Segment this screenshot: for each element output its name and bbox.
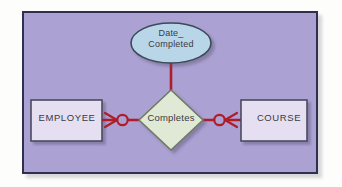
attribute-label-line-1: Date_ [132, 28, 210, 39]
entity-course-label: COURSE [246, 112, 312, 123]
entity-employee-label: EMPLOYEE [32, 112, 102, 123]
diagram-canvas: EMPLOYEE COURSE Completes Date_ Complete… [0, 0, 342, 187]
attribute-label-line-2: Completed [132, 39, 210, 50]
attribute-date-completed-label: Date_ Completed [132, 28, 210, 49]
relationship-completes-label: Completes [140, 112, 202, 123]
